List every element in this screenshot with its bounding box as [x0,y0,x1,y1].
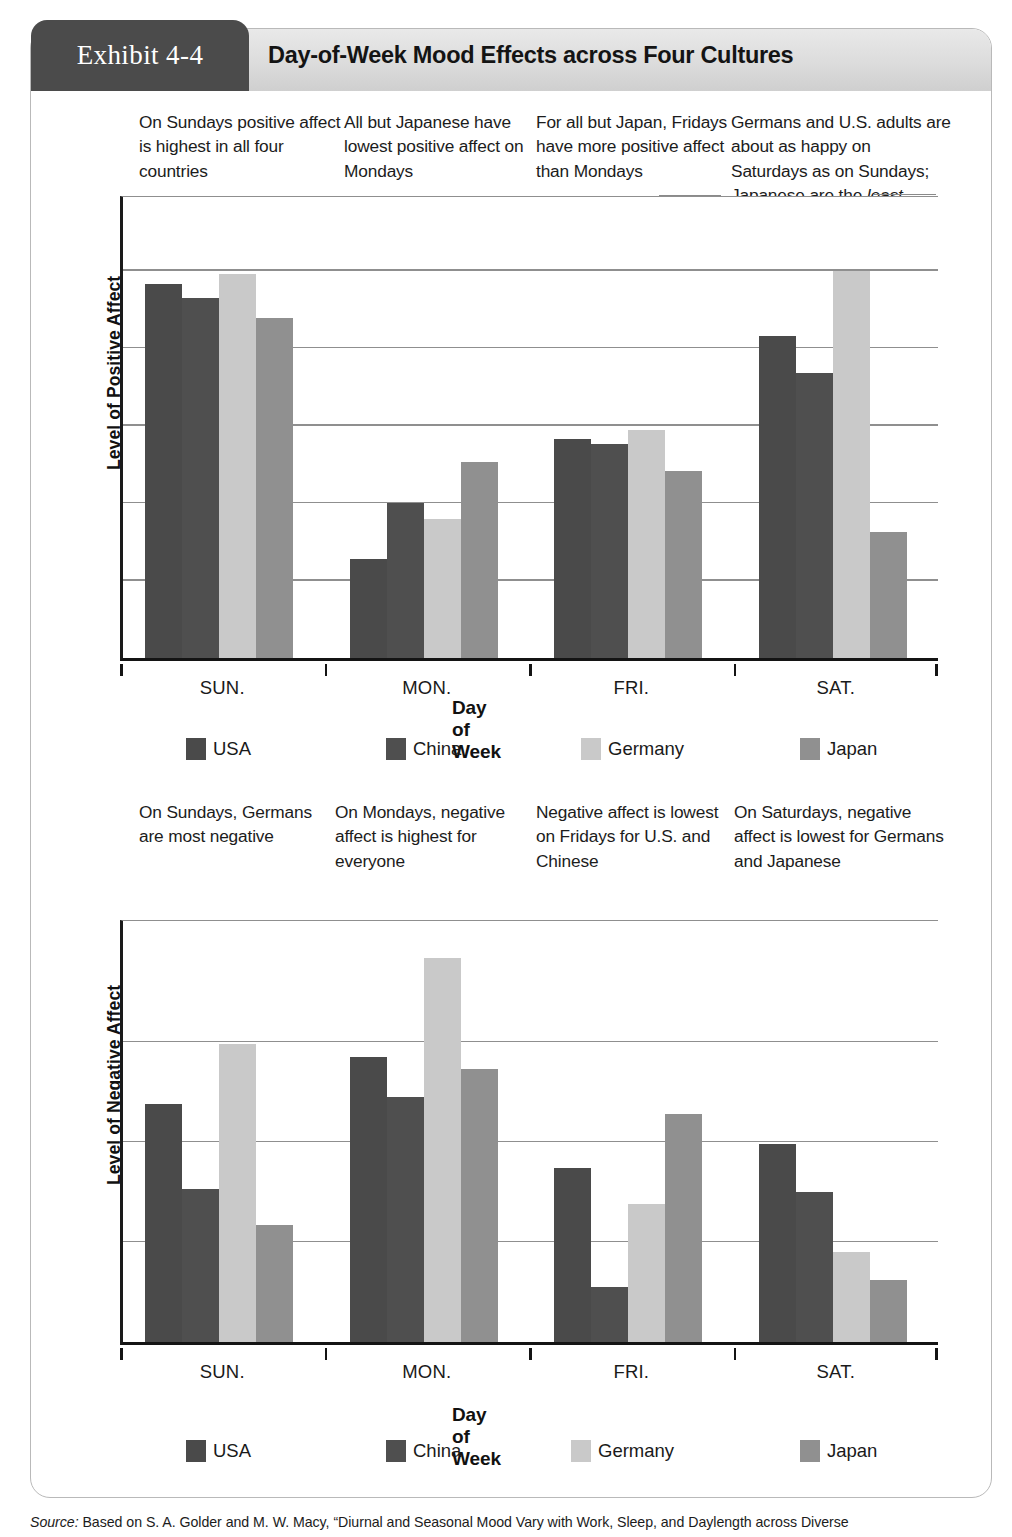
bar-group-sun [145,921,293,1342]
bar-group-fri [554,921,702,1342]
legend-label-japan: Japan [827,1440,877,1462]
x-axis-label-sat: SAT. [734,1361,939,1383]
annotation-note: On Sundays, Germans are most negative [139,800,335,873]
bar-germany-sat [833,271,870,659]
legend-swatch-germany-icon [571,1440,591,1462]
bar-japan-fri [665,1114,702,1342]
legend-label-germany: Germany [598,1440,674,1462]
bar-group-fri [554,197,702,658]
bar-china-sat [796,373,833,658]
exhibit-page: Exhibit 4-4 Day-of-Week Mood Effects acr… [0,0,1012,1537]
legend-label-china: China [413,1440,461,1462]
legend-item-china[interactable]: China [386,1440,461,1462]
middle-annotations: On Sundays, Germans are most negative On… [139,800,969,873]
bar-germany-sat [833,1252,870,1342]
bar-china-sat [796,1192,833,1342]
exhibit-number-tab: Exhibit 4-4 [31,20,249,91]
chart2-plot-area [120,920,938,1345]
legend-item-germany[interactable]: Germany [581,738,684,760]
axis-tick [529,1348,532,1360]
x-axis-label-fri: FRI. [529,1361,734,1383]
legend-item-germany[interactable]: Germany [571,1440,674,1462]
bar-china-mon [387,1097,424,1342]
bar-china-fri [591,1287,628,1342]
legend-swatch-usa-icon [186,1440,206,1462]
legend-label-germany: Germany [608,738,684,760]
bar-usa-sat [759,336,796,658]
bar-japan-sun [256,1225,293,1342]
bar-group-sat [759,921,907,1342]
x-axis-label-sun: SUN. [120,1361,325,1383]
bar-japan-mon [461,1069,498,1342]
x-axis-label-mon: MON. [325,677,530,699]
bar-japan-sun [256,318,293,658]
bar-germany-sun [219,1044,256,1342]
legend-item-usa[interactable]: USA [186,1440,251,1462]
bar-germany-fri [628,1204,665,1342]
bar-germany-fri [628,430,665,658]
legend-swatch-japan-icon [800,738,820,760]
bar-usa-mon [350,559,387,658]
axis-tick [734,1348,737,1360]
source-label: Source: [30,1514,79,1530]
annotation-note: Negative affect is lowest on Fridays for… [536,800,734,873]
bar-group-sun [145,197,293,658]
bar-usa-fri [554,1168,591,1342]
x-axis-label-fri: FRI. [529,677,734,699]
legend-item-usa[interactable]: USA [186,738,251,760]
legend-swatch-usa-icon [186,738,206,760]
annotation-note: On Mondays, negative affect is highest f… [335,800,536,873]
bar-usa-sun [145,1104,182,1342]
legend-swatch-china-icon [386,738,406,760]
legend-item-china[interactable]: China [386,738,461,760]
bar-japan-sat [870,1280,907,1342]
x-axis-label-sat: SAT. [734,677,939,699]
axis-tick [120,664,123,676]
legend-label-usa: USA [213,1440,251,1462]
source-note: Source: Based on S. A. Golder and M. W. … [30,1514,849,1530]
legend-label-usa: USA [213,738,251,760]
legend-swatch-japan-icon [800,1440,820,1462]
bar-china-sun [182,1189,219,1342]
x-axis-label-sun: SUN. [120,677,325,699]
bar-group-mon [350,921,498,1342]
bar-germany-mon [424,958,461,1342]
bar-japan-mon [461,462,498,658]
bar-usa-mon [350,1057,387,1342]
x-axis-label-mon: MON. [325,1361,530,1383]
legend-item-japan[interactable]: Japan [800,738,877,760]
axis-tick [325,1348,328,1360]
bar-germany-sun [219,274,256,658]
axis-tick [935,664,938,676]
legend-label-japan: Japan [827,738,877,760]
bar-china-mon [387,503,424,658]
bar-group-sat [759,197,907,658]
bar-usa-sat [759,1144,796,1342]
axis-tick [734,664,737,676]
exhibit-title: Day-of-Week Mood Effects across Four Cul… [268,42,793,69]
axis-tick [935,1348,938,1360]
source-text: Based on S. A. Golder and M. W. Macy, “D… [79,1514,849,1530]
legend-swatch-germany-icon [581,738,601,760]
exhibit-number-label: Exhibit 4-4 [77,40,204,71]
axis-tick [529,664,532,676]
legend-item-japan[interactable]: Japan [800,1440,877,1462]
bar-china-sun [182,298,219,658]
bar-germany-mon [424,519,461,658]
bar-china-fri [591,444,628,658]
chart1-plot-area [120,196,938,661]
bar-japan-sat [870,532,907,658]
bar-usa-sun [145,284,182,658]
annotation-note: On Saturdays, negative affect is lowest … [734,800,954,873]
legend-label-china: China [413,738,461,760]
bar-usa-fri [554,439,591,658]
legend-swatch-china-icon [386,1440,406,1462]
bar-group-mon [350,197,498,658]
axis-tick [120,1348,123,1360]
axis-tick [325,664,328,676]
bar-japan-fri [665,471,702,658]
